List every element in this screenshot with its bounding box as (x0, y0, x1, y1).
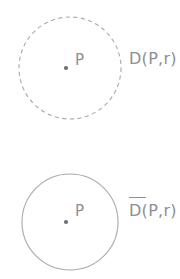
closed-disk-overbar-wrap: D(P,r) (129, 203, 177, 219)
disk-diagram-svg (0, 0, 180, 279)
closed-disk-name-label-wrap: D(P,r) (129, 203, 177, 219)
closure-overbar (129, 197, 146, 198)
open-disk-center-label: P (75, 53, 84, 68)
figure-canvas: P D(P,r) P D(P,r) (0, 0, 180, 279)
open-disk-center-point (64, 66, 68, 70)
closed-disk-center-label: P (75, 204, 84, 219)
closed-disk-boundary-circle (22, 174, 118, 270)
open-disk-name-label: D(P,r) (129, 51, 177, 67)
open-disk-boundary-circle (19, 17, 121, 119)
closed-disk-center-point (64, 220, 68, 224)
closed-disk-name-label: D(P,r) (129, 201, 177, 220)
